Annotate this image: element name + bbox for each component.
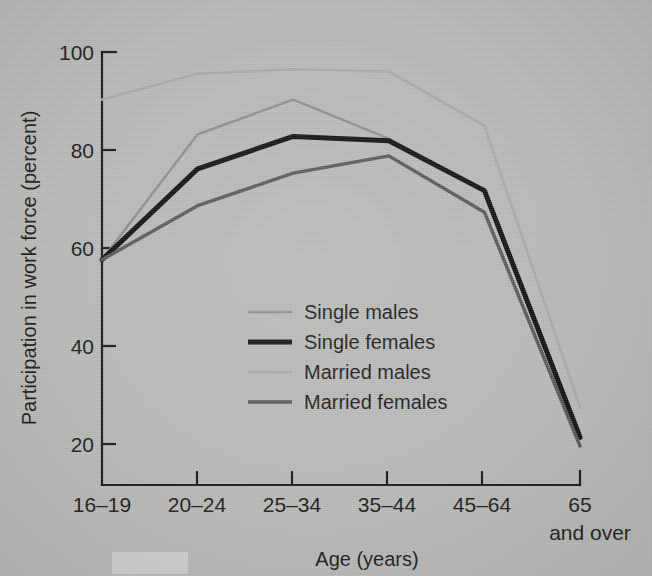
y-tick-label-20: 20 [71,433,94,456]
legend-label-married-males: Married males [304,361,431,383]
chart-figure: 100 80 60 40 20 16–19 20–24 25–34 35–44 … [0,0,652,576]
y-tick-label-100: 100 [59,41,94,64]
x-axis-title: Age (years) [315,548,418,570]
x-tick-label-45-64: 45–64 [453,493,512,516]
x-tick-label-and-over: and over [549,521,631,544]
legend-label-single-males: Single males [304,301,419,323]
x-axis-ticks [197,471,482,485]
y-tick-label-40: 40 [71,335,94,358]
scan-artifact-patch [112,552,188,574]
legend-label-married-females: Married females [304,391,447,413]
y-axis-ticks [102,150,116,444]
y-axis-tick-labels: 100 80 60 40 20 [59,41,94,456]
chart-legend: Single malesSingle femalesMarried malesM… [248,301,447,413]
legend-label-single-females: Single females [304,331,435,353]
line-chart-canvas: 100 80 60 40 20 16–19 20–24 25–34 35–44 … [0,0,652,576]
data-series-group [102,69,580,446]
x-tick-label-35-44: 35–44 [358,493,417,516]
x-tick-label-65: 65 [568,493,591,516]
y-tick-label-60: 60 [71,237,94,260]
x-tick-label-16-19: 16–19 [73,493,131,516]
x-tick-label-25-34: 25–34 [263,493,322,516]
x-tick-label-20-24: 20–24 [168,493,227,516]
y-axis-title: Participation in work force (percent) [18,111,40,426]
y-tick-label-80: 80 [71,139,94,162]
x-axis-tick-labels: 16–19 20–24 25–34 35–44 45–64 65 and ove… [73,493,631,544]
